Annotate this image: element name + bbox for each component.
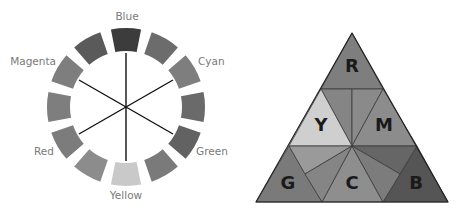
letter-m: M xyxy=(375,114,393,135)
letter-c: C xyxy=(345,172,358,193)
letter-r: R xyxy=(345,55,359,76)
letter-g: G xyxy=(281,172,296,193)
label-green: Green xyxy=(196,145,228,157)
wheel-segment xyxy=(111,28,141,52)
wheel-segment xyxy=(111,162,141,186)
wheel-segment xyxy=(47,92,71,122)
wheel-segment xyxy=(51,55,83,89)
label-magenta: Magenta xyxy=(10,55,56,67)
label-yellow: Yellow xyxy=(109,189,143,201)
wheel-segment xyxy=(144,149,178,181)
wheel-segment xyxy=(181,92,205,122)
label-cyan: Cyan xyxy=(198,55,225,67)
wheel-segment xyxy=(168,55,200,89)
letter-y: Y xyxy=(313,114,328,135)
label-blue: Blue xyxy=(115,10,138,22)
letter-b: B xyxy=(409,172,423,193)
wheel-axes xyxy=(79,53,173,161)
wheel-segment xyxy=(144,32,178,64)
color-models-figure: Blue Cyan Green Yellow Red Magenta xyxy=(0,0,468,214)
wheel-segment xyxy=(51,125,83,159)
label-red: Red xyxy=(34,145,54,157)
wheel-segment xyxy=(74,32,108,64)
wheel-segment xyxy=(74,149,108,181)
